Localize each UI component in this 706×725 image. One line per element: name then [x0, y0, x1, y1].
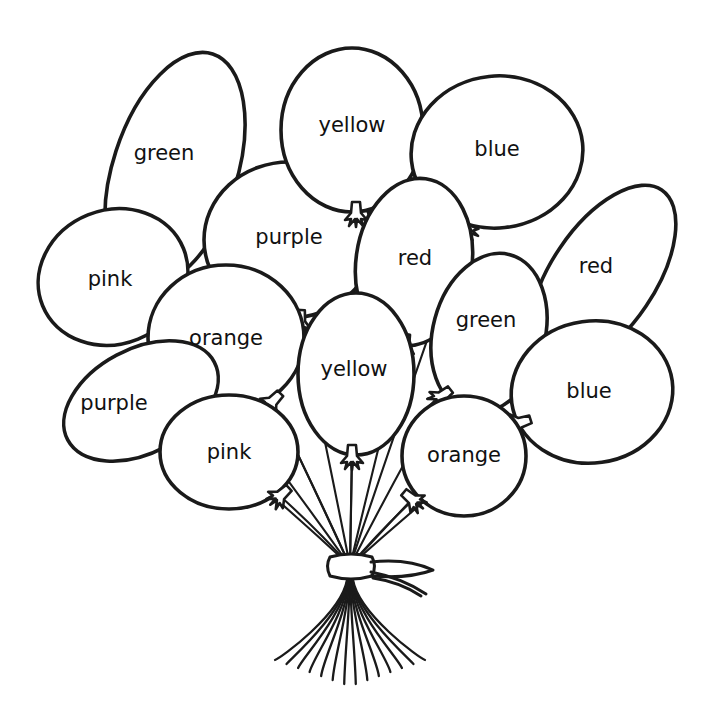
balloon-label-blue: blue: [474, 137, 519, 161]
tie-wrap-icon: [328, 554, 375, 579]
balloon-label-pink: pink: [207, 440, 252, 464]
balloon-label-orange: orange: [189, 326, 263, 350]
balloon-label-green: green: [456, 308, 517, 332]
coloring-page-canvas: greenpinkpurpleyellowblueredredgreenoran…: [0, 0, 706, 725]
balloon-label-yellow: yellow: [318, 113, 385, 137]
balloon-label-purple: purple: [255, 225, 322, 249]
balloon-label-orange: orange: [427, 443, 501, 467]
balloon-label-yellow: yellow: [320, 357, 387, 381]
balloon-label-pink: pink: [88, 267, 133, 291]
balloon-bouquet-illustration: greenpinkpurpleyellowblueredredgreenoran…: [0, 0, 706, 725]
balloon-label-green: green: [134, 141, 195, 165]
balloon-label-red: red: [579, 254, 613, 278]
balloon-label-blue: blue: [566, 379, 611, 403]
balloon-label-purple: purple: [80, 391, 147, 415]
balloon-label-red: red: [398, 246, 432, 270]
